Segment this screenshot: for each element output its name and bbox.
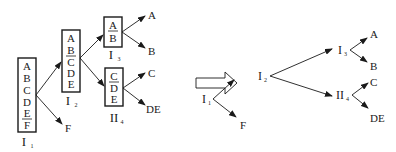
box-ii4-item-c: C [110, 70, 117, 82]
right-node-i2: I [258, 69, 262, 83]
arrow-i3-to-a [122, 16, 145, 32]
box-i1-label: I [22, 134, 26, 149]
left-leaf-c: C [148, 67, 155, 79]
box-i1-label-sub: 1 [31, 143, 34, 149]
right-node-ii4: II [336, 88, 344, 102]
arrow-ii4-to-de [123, 88, 145, 105]
right-node-ii4-sub: 4 [346, 96, 349, 102]
right-arrow-ii4-to-c [352, 83, 368, 95]
box-i3-item-a: A [109, 19, 117, 31]
box-ii4-label-sub: 4 [121, 119, 124, 125]
right-node-i1-sub: 1 [208, 100, 211, 106]
right-leaf-a: A [370, 28, 378, 40]
left-tree: A B C D E F I 1 A B C D E I 2 A B [18, 9, 161, 149]
box-i2-label-sub: 2 [75, 102, 78, 108]
right-arrow-i1-to-f [213, 99, 236, 117]
box-i1-item-b: B [23, 72, 30, 84]
box-i1: A B C D E F I 1 [18, 58, 36, 149]
box-i2-item-a: A [67, 32, 75, 44]
box-i1-item-f: F [24, 119, 30, 131]
box-ii4-label: II [110, 110, 119, 125]
right-leaf-f: F [240, 119, 246, 131]
right-arrow-ii4-to-de [352, 95, 368, 108]
box-i3-item-b: B [109, 32, 116, 44]
arrow-i1-to-f [36, 95, 62, 124]
box-i2-item-b: B [67, 44, 74, 56]
right-arrow-i2-to-i3-visible [270, 49, 332, 76]
arrow-i1-to-i2 [36, 62, 61, 95]
box-i3: A B I 3 [104, 17, 122, 62]
right-node-i1: I [202, 92, 206, 106]
arrow-ii4-to-c [123, 73, 145, 88]
right-arrow-i3-to-b [350, 50, 367, 62]
right-leaf-b: B [370, 60, 377, 72]
left-leaf-a: A [148, 9, 156, 21]
box-i2: A B C D E I 2 [62, 30, 80, 108]
box-ii4-item-e: E [111, 93, 118, 105]
arrow-i2-to-ii4 [80, 58, 104, 86]
arrow-i2-to-i3 [80, 35, 103, 58]
right-leaf-de: DE [370, 112, 385, 124]
right-arrow-i3-to-a [350, 38, 367, 50]
right-node-i3: I [338, 43, 342, 57]
box-i3-label: I [109, 47, 113, 62]
box-ii4: C D E II 4 [105, 68, 124, 125]
box-i1-item-a: A [23, 60, 31, 72]
arrow-i3-to-b [122, 32, 145, 48]
box-i1-item-e: E [24, 107, 31, 119]
left-leaf-b: B [148, 45, 155, 57]
right-node-i2-sub: 2 [264, 77, 267, 83]
box-i2-label: I [66, 93, 70, 108]
box-i2-item-e: E [68, 78, 75, 90]
box-i1-item-c: C [23, 84, 30, 96]
separation-sequence-diagram: A B C D E F I 1 A B C D E I 2 A B [0, 0, 396, 152]
left-leaf-f: F [65, 122, 71, 134]
right-arrow-i2-to-ii4 [270, 76, 332, 96]
right-node-i3-sub: 3 [344, 51, 347, 57]
right-leaf-c: C [370, 76, 377, 88]
left-leaf-de: DE [146, 103, 161, 115]
left-tree-arrows [36, 16, 145, 124]
box-i3-label-sub: 3 [118, 56, 121, 62]
